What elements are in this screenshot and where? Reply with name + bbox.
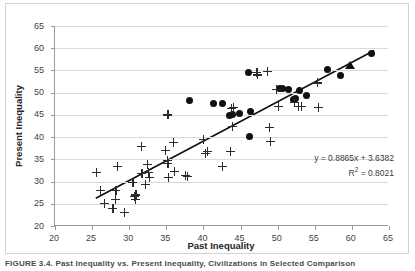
- data-point-plus: [313, 78, 322, 87]
- data-point-plus: [183, 172, 192, 181]
- x-tick-label: 40: [187, 234, 217, 243]
- y-axis-title-holder: Present Inequality: [24, 26, 25, 226]
- y-tick-mark: [51, 137, 55, 138]
- data-point-plus: [111, 195, 120, 204]
- data-point-plus: [169, 138, 178, 147]
- x-tick-label: 65: [373, 234, 403, 243]
- gridline: [55, 182, 388, 183]
- y-tick-label: 30: [4, 177, 44, 186]
- x-tick-mark: [92, 226, 93, 230]
- y-tick-mark: [51, 93, 55, 94]
- data-point-circle: [247, 108, 254, 115]
- x-tick-label: 45: [225, 234, 255, 243]
- gridline: [55, 93, 388, 94]
- y-tick-mark: [51, 159, 55, 160]
- data-point-plus: [228, 122, 237, 131]
- y-tick-label: 40: [4, 133, 44, 142]
- x-tick-label: 60: [336, 234, 366, 243]
- y-tick-label: 25: [4, 199, 44, 208]
- data-point-plus: [111, 186, 120, 195]
- x-tick-mark: [241, 226, 242, 230]
- gridline: [55, 26, 388, 27]
- gridline: [55, 115, 388, 116]
- plot-area: [54, 26, 388, 226]
- regression-equation: y = 0.8865x + 3.6382: [314, 152, 394, 164]
- x-tick-mark: [389, 226, 390, 230]
- data-point-circle: [186, 97, 193, 104]
- r-squared-line: R2 = 0.8021: [314, 164, 394, 179]
- x-tick-mark: [278, 226, 279, 230]
- regression-annotation: y = 0.8865x + 3.6382 R2 = 0.8021: [314, 152, 394, 179]
- data-point-plus: [266, 137, 275, 146]
- x-tick-mark: [315, 226, 316, 230]
- y-tick-mark: [51, 70, 55, 71]
- y-tick-mark: [51, 48, 55, 49]
- figure-container: Present Inequality Past Inequality y = 0…: [0, 0, 415, 271]
- data-point-plus: [203, 147, 212, 156]
- data-point-plus: [96, 186, 105, 195]
- data-point-plus: [137, 142, 146, 151]
- x-tick-label: 55: [299, 234, 329, 243]
- data-point-plus: [314, 103, 323, 112]
- data-point-plus: [265, 123, 274, 132]
- x-tick-label: 35: [150, 234, 180, 243]
- data-point-plus: [297, 102, 306, 111]
- y-tick-label: 55: [4, 66, 44, 75]
- x-tick-mark: [352, 226, 353, 230]
- y-tick-mark: [51, 204, 55, 205]
- data-point-plus: [199, 135, 208, 144]
- data-point-plus: [92, 168, 101, 177]
- y-tick-mark: [51, 26, 55, 27]
- chart-frame: Present Inequality Past Inequality y = 0…: [5, 3, 409, 254]
- gridline: [55, 70, 388, 71]
- x-tick-mark: [166, 226, 167, 230]
- y-tick-mark: [51, 115, 55, 116]
- y-tick-label: 50: [4, 88, 44, 97]
- data-point-plus: [131, 190, 140, 199]
- data-point-plus: [163, 110, 172, 119]
- data-point-circle: [245, 69, 252, 76]
- x-tick-mark: [203, 226, 204, 230]
- y-tick-label: 65: [4, 22, 44, 31]
- y-tick-mark: [51, 182, 55, 183]
- y-tick-label: 20: [4, 222, 44, 231]
- data-point-plus: [229, 103, 238, 112]
- data-point-plus: [120, 208, 129, 217]
- data-point-plus: [161, 146, 170, 155]
- gridline: [55, 48, 388, 49]
- gridline: [55, 137, 388, 138]
- y-tick-label: 45: [4, 110, 44, 119]
- data-point-plus: [263, 67, 272, 76]
- x-tick-label: 20: [39, 234, 69, 243]
- data-point-circle: [285, 86, 292, 93]
- x-tick-label: 30: [113, 234, 143, 243]
- data-point-plus: [226, 147, 235, 156]
- data-point-plus: [108, 204, 117, 213]
- x-tick-mark: [129, 226, 130, 230]
- data-point-plus: [218, 162, 227, 171]
- x-tick-mark: [55, 226, 56, 230]
- data-point-plus: [274, 102, 283, 111]
- figure-caption: FIGURE 3.4. Past Inequality vs. Present …: [5, 259, 409, 271]
- data-point-plus: [128, 178, 137, 187]
- x-tick-label: 50: [262, 234, 292, 243]
- y-tick-label: 35: [4, 155, 44, 164]
- data-point-triangle: [345, 61, 355, 69]
- y-tick-label: 60: [4, 44, 44, 53]
- x-tick-label: 25: [76, 234, 106, 243]
- data-point-plus: [253, 70, 262, 79]
- data-point-plus: [113, 162, 122, 171]
- data-point-plus: [145, 173, 154, 182]
- data-point-circle: [324, 66, 331, 73]
- data-point-plus: [170, 167, 179, 176]
- r-squared-value: = 0.8021: [358, 168, 394, 178]
- data-point-circle: [368, 50, 375, 57]
- trendline: [55, 26, 389, 226]
- data-point-plus: [272, 85, 281, 94]
